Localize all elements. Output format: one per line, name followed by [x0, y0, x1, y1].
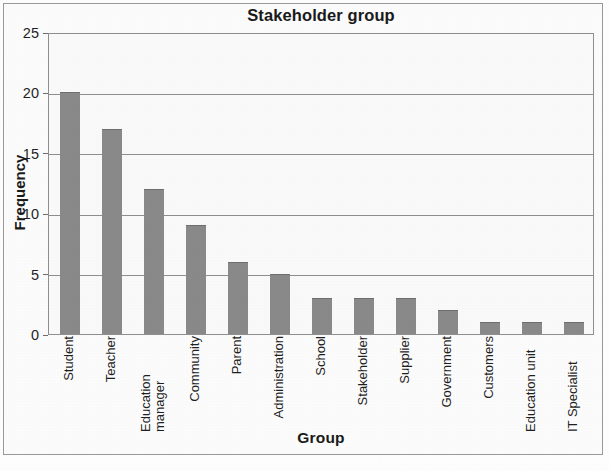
y-axis-tick-label: 25	[0, 25, 39, 41]
x-axis-category-label: Administration	[272, 336, 286, 431]
y-axis-tick-label: 5	[0, 267, 39, 283]
x-axis-category-label: IT Specialist	[566, 336, 580, 431]
x-axis-category-label-text: Supplier	[398, 336, 412, 384]
x-axis-category-label-text: Education manager	[139, 336, 167, 432]
y-axis-tick-mark	[43, 33, 48, 34]
x-axis-category-label: Education manager	[146, 336, 160, 431]
x-axis-category-label: Student	[62, 336, 76, 431]
x-axis-category-label-text: Customers	[482, 336, 496, 399]
x-axis-category-label-text: Government	[440, 336, 454, 408]
x-axis-title: Group	[48, 429, 594, 447]
x-axis-category-label: Government	[440, 336, 454, 431]
x-axis-category-label-text: IT Specialist	[566, 336, 580, 432]
x-axis-category-label-text: Education unit	[524, 336, 538, 432]
y-axis-tick-mark	[43, 93, 48, 94]
x-axis-category-label: Parent	[230, 336, 244, 431]
x-axis-category-label-text: Teacher	[104, 336, 118, 382]
x-axis-category-labels: StudentTeacherEducation managerCommunity…	[0, 336, 609, 431]
y-axis-tick-mark	[43, 214, 48, 215]
x-axis-category-label: Teacher	[104, 336, 118, 431]
y-axis-tick-mark	[43, 153, 48, 154]
y-axis-tick-mark	[43, 274, 48, 275]
x-axis-category-label-text: Community	[188, 336, 202, 402]
x-axis-category-label: Supplier	[398, 336, 412, 431]
x-axis-category-label: Stakeholder	[356, 336, 370, 431]
x-axis-category-label-text: Student	[62, 336, 76, 381]
x-axis-category-label-text: Parent	[230, 336, 244, 374]
x-axis-category-label-text: Stakeholder	[356, 336, 370, 405]
x-axis-category-label: Community	[188, 336, 202, 431]
y-axis-tick-label: 20	[0, 85, 39, 101]
y-axis-title: Frequency	[11, 118, 28, 268]
figure-root: Stakeholder group Frequency 2520151050 S…	[0, 0, 609, 471]
x-axis-category-label-text: Administration	[272, 336, 286, 418]
x-axis-category-label: Education unit	[524, 336, 538, 431]
y-axis-tick-label: 10	[0, 206, 39, 222]
x-axis-category-label-text: School	[314, 336, 328, 376]
y-axis-tick-label: 15	[0, 146, 39, 162]
x-axis-category-label: Customers	[482, 336, 496, 431]
x-axis-category-label: School	[314, 336, 328, 431]
